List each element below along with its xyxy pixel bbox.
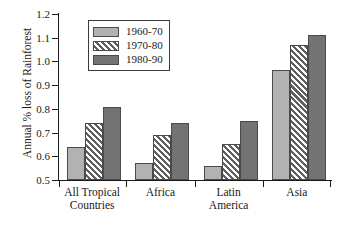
x-axis-category-label: LatinAmerica [195,186,263,212]
legend-label: 1960-70 [126,26,163,37]
category-label-line: Countries [58,199,126,212]
category-label-line: America [195,199,263,212]
legend-swatch [93,27,119,37]
bar [290,45,308,180]
rainforest-loss-bar-chart: Annual % loss of Rainforest 1.21.11.00.9… [0,0,339,241]
bar [135,163,153,180]
legend: 1960-701970-801980-90 [88,20,170,71]
legend-item: 1970-80 [93,39,163,52]
category-label-line: Latin [195,186,263,199]
y-axis-tick-label: 1.2 [24,9,50,20]
legend-label: 1980-90 [126,54,163,65]
y-axis-tick-label: 0.5 [24,175,50,186]
bar [103,107,121,181]
legend-item: 1980-90 [93,53,163,66]
category-label-line: Africa [126,186,194,199]
y-axis-tick-label: 0.6 [24,151,50,162]
category-label-line: All Tropical [58,186,126,199]
legend-label: 1970-80 [126,40,163,51]
bar [222,144,240,180]
bar [85,123,103,180]
bar [171,123,189,180]
x-axis-category-label: All TropicalCountries [58,186,126,212]
legend-swatch [93,41,119,51]
y-axis-tick-label: 0.7 [24,128,50,139]
category-label-line: Asia [263,186,331,199]
bar [240,121,258,180]
bar [272,70,290,180]
bar [153,135,171,180]
x-axis-category-label: Africa [126,186,194,199]
bar [308,35,326,180]
y-axis-tick-label: 0.9 [24,80,50,91]
y-axis-tick-label: 1.0 [24,56,50,67]
x-axis-category-label: Asia [263,186,331,199]
bar [204,166,222,180]
y-axis-tick-label: 0.8 [24,104,50,115]
legend-swatch [93,55,119,65]
legend-item: 1960-70 [93,25,163,38]
y-axis-tick [52,180,59,181]
y-axis-tick-label: 1.1 [24,33,50,44]
bar [67,147,85,180]
